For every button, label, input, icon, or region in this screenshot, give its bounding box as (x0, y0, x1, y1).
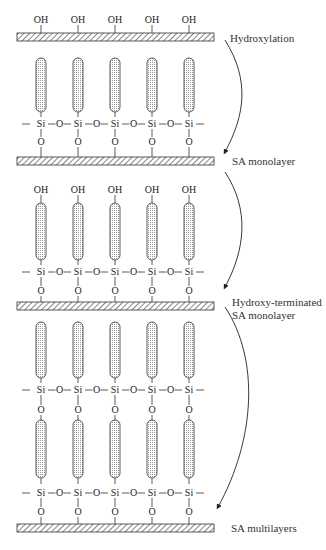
alkyl-chain (147, 420, 157, 478)
silicon-atom: Si (185, 487, 194, 498)
bridging-oxygen: O (167, 384, 174, 395)
anchor-oxygen: O (111, 136, 118, 147)
hydroxyl-group: OH (182, 14, 196, 25)
bridging-oxygen: O (130, 118, 137, 129)
alkyl-chain (184, 420, 194, 478)
label-hydroxy-terminated: Hydroxy-terminated (232, 296, 322, 308)
anchor-oxygen: O (74, 136, 81, 147)
hydroxyl-group: OH (108, 14, 122, 25)
label-sa-monolayer: SA monolayer (232, 155, 295, 167)
hydroxyl-group: OH (145, 14, 159, 25)
silicon-atom: Si (148, 487, 157, 498)
silicon-atom: Si (148, 384, 157, 395)
alkyl-chain (73, 58, 83, 112)
alkyl-chain (36, 322, 46, 378)
alkyl-chain (184, 322, 194, 378)
alkyl-chain (36, 58, 46, 112)
linking-oxygen: O (74, 404, 81, 415)
anchor-oxygen: O (74, 506, 81, 517)
silicon-atom: Si (74, 118, 83, 129)
substrate-4 (17, 524, 214, 532)
anchor-oxygen: O (185, 506, 192, 517)
anchor-oxygen: O (185, 136, 192, 147)
bridging-oxygen: O (93, 118, 100, 129)
arrow-step-3 (218, 307, 249, 507)
substrate-2 (17, 157, 214, 165)
alkyl-chain (36, 203, 46, 260)
alkyl-chain (110, 420, 120, 478)
silicon-atom: Si (185, 384, 194, 395)
silicon-atom: Si (185, 266, 194, 277)
alkyl-chain (184, 58, 194, 112)
anchor-oxygen: O (148, 506, 155, 517)
hydroxyl-group: OH (182, 184, 196, 195)
hydroxyl-group: OH (71, 14, 85, 25)
alkyl-chain (110, 58, 120, 112)
silicon-atom: Si (74, 487, 83, 498)
alkyl-chain (110, 322, 120, 378)
substrate-3 (17, 302, 214, 310)
bridging-oxygen: O (167, 118, 174, 129)
panel-hydroxylated-substrate: OHOHOHOHOH (17, 14, 214, 41)
silicon-atom: Si (111, 487, 120, 498)
alkyl-chain (184, 203, 194, 260)
anchor-oxygen: O (37, 506, 44, 517)
bridging-oxygen: O (56, 384, 63, 395)
silicon-atom: Si (111, 384, 120, 395)
linking-oxygen: O (111, 404, 118, 415)
hydroxyl-group: OH (34, 184, 48, 195)
linking-oxygen: O (185, 404, 192, 415)
label-hydroxylation: Hydroxylation (230, 32, 294, 44)
silicon-atom: Si (37, 266, 46, 277)
alkyl-chain (73, 420, 83, 478)
bridging-oxygen: O (167, 487, 174, 498)
linking-oxygen: O (37, 404, 44, 415)
anchor-oxygen: O (185, 285, 192, 296)
panel-sa-multilayers: SiOOSiOOSiOOSiOOSiOSiOOSiOOSiOOSiOOSiO (17, 322, 214, 532)
alkyl-chain (36, 420, 46, 478)
alkyl-chain (110, 203, 120, 260)
anchor-oxygen: O (148, 136, 155, 147)
anchor-oxygen: O (37, 136, 44, 147)
silicon-atom: Si (111, 118, 120, 129)
bridging-oxygen: O (56, 487, 63, 498)
silicon-atom: Si (37, 487, 46, 498)
label-sa-multilayers: SA multilayers (231, 522, 297, 534)
hydroxyl-group: OH (145, 184, 159, 195)
bridging-oxygen: O (93, 487, 100, 498)
substrate-1 (17, 33, 214, 41)
silicon-atom: Si (185, 118, 194, 129)
anchor-oxygen: O (111, 506, 118, 517)
silicon-atom: Si (74, 266, 83, 277)
anchor-oxygen: O (111, 285, 118, 296)
bridging-oxygen: O (93, 384, 100, 395)
bridging-oxygen: O (130, 384, 137, 395)
silicon-atom: Si (148, 266, 157, 277)
silicon-atom: Si (111, 266, 120, 277)
arrow-step-2 (225, 172, 242, 287)
hydroxyl-group: OH (108, 184, 122, 195)
silicon-atom: Si (37, 118, 46, 129)
bridging-oxygen: O (56, 266, 63, 277)
bridging-oxygen: O (93, 266, 100, 277)
silicon-atom: Si (148, 118, 157, 129)
linking-oxygen: O (148, 404, 155, 415)
hydroxyl-group: OH (71, 184, 85, 195)
silicon-atom: Si (74, 384, 83, 395)
alkyl-chain (73, 322, 83, 378)
label-sa-monolayer-2: SA monolayer (232, 309, 295, 321)
bridging-oxygen: O (130, 487, 137, 498)
alkyl-chain (73, 203, 83, 260)
hydroxyl-group: OH (34, 14, 48, 25)
bridging-oxygen: O (130, 266, 137, 277)
alkyl-chain (147, 203, 157, 260)
anchor-oxygen: O (37, 285, 44, 296)
silicon-atom: Si (37, 384, 46, 395)
alkyl-chain (147, 322, 157, 378)
anchor-oxygen: O (148, 285, 155, 296)
panel-hydroxy-terminated-monolayer: OHOHOHOHOHSiOOSiOOSiOOSiOOSiO (17, 184, 214, 310)
bridging-oxygen: O (167, 266, 174, 277)
diagram-canvas: OHOHOHOHOH SiOOSiOOSiOOSiOOSiO OHOHOHOHO… (0, 0, 326, 550)
anchor-oxygen: O (74, 285, 81, 296)
bridging-oxygen: O (56, 118, 63, 129)
